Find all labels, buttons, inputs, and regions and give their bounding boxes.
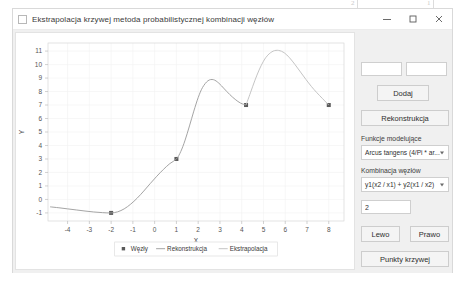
legend-marker-square	[122, 247, 125, 250]
minimize-icon[interactable]	[374, 9, 400, 29]
maximize-icon[interactable]	[400, 9, 426, 29]
x-tick-label: 5	[262, 226, 266, 233]
combination-param-input[interactable]	[361, 200, 411, 214]
x-input[interactable]	[361, 62, 402, 76]
coordinate-inputs	[361, 62, 447, 76]
chart-panel: -4-3-2-1012345678-101234567891011XYWęzły…	[15, 32, 355, 270]
y-tick-label: 10	[35, 61, 43, 68]
y-tick-label: 4	[38, 142, 42, 149]
chevron-down-icon	[440, 183, 444, 186]
y-tick-label: -1	[36, 209, 42, 216]
y-tick-label: 2	[38, 169, 42, 176]
close-icon[interactable]	[426, 9, 452, 29]
node-combination-value: y1(x2 / x1) + y2(x1 / x2)	[365, 181, 434, 188]
x-tick-label: -3	[86, 226, 92, 233]
node-combination-label: Kombinacja węzłów	[361, 167, 421, 174]
title-bar: Ekstrapolacja krzywej metoda probabilist…	[13, 9, 452, 30]
window-title: Ekstrapolacja krzywej metoda probabilist…	[32, 15, 274, 24]
y-tick-label: 1	[38, 182, 42, 189]
y-tick-label: 5	[38, 128, 42, 135]
legend-label: Rekonstrukcja	[167, 245, 207, 253]
x-tick-label: 6	[283, 226, 287, 233]
x-tick-label: -4	[65, 226, 71, 233]
x-tick-label: 4	[240, 226, 244, 233]
chevron-down-icon	[440, 151, 444, 154]
y-tick-label: 8	[38, 88, 42, 95]
application-window: Ekstrapolacja krzywej metoda probabilist…	[12, 8, 453, 273]
annotation-number: 2	[351, 0, 355, 7]
x-tick-label: 8	[327, 226, 331, 233]
legend-label: Węzły	[131, 245, 149, 253]
model-functions-value: Arcus tangens (4/Pi * ar...	[365, 149, 440, 156]
x-tick-label: 2	[196, 226, 200, 233]
y-tick-label: 11	[35, 47, 42, 54]
series-line	[246, 50, 329, 105]
y-input[interactable]	[406, 62, 447, 76]
reconstruct-button[interactable]: Rekonstrukcja	[361, 110, 449, 126]
model-functions-label: Funkcje modelujące	[361, 135, 421, 142]
curve-points-button[interactable]: Punkty krzywej	[361, 251, 449, 267]
model-functions-select[interactable]: Arcus tangens (4/Pi * ar...	[361, 145, 449, 160]
x-tick-label: 3	[218, 226, 222, 233]
legend-label: Ekstrapolacja	[230, 245, 268, 253]
node-combination-select[interactable]: y1(x2 / x1) + y2(x1 / x2)	[361, 177, 449, 192]
app-icon	[18, 15, 27, 24]
annotation-number: 1	[427, 0, 431, 7]
x-tick-label: 1	[175, 226, 179, 233]
y-axis-label: Y	[18, 129, 25, 134]
extrapolation-chart: -4-3-2-1012345678-101234567891011XYWęzły…	[16, 33, 354, 269]
x-tick-label: 7	[305, 226, 309, 233]
right-button[interactable]: Prawo	[410, 226, 449, 242]
left-button[interactable]: Lewo	[361, 226, 400, 242]
x-tick-label: -1	[130, 226, 136, 233]
add-button[interactable]: Dodaj	[377, 85, 429, 101]
y-tick-label: 6	[38, 115, 42, 122]
y-tick-label: 9	[38, 74, 42, 81]
window-body: -4-3-2-1012345678-101234567891011XYWęzły…	[13, 30, 452, 273]
controls-panel: Dodaj Rekonstrukcja Funkcje modelujące A…	[359, 32, 451, 270]
x-tick-label: -2	[108, 226, 114, 233]
window-controls	[374, 9, 452, 29]
x-tick-label: 0	[153, 226, 157, 233]
y-tick-label: 0	[38, 196, 42, 203]
y-tick-label: 3	[38, 155, 42, 162]
y-tick-label: 7	[38, 101, 42, 108]
series-line	[50, 79, 246, 212]
